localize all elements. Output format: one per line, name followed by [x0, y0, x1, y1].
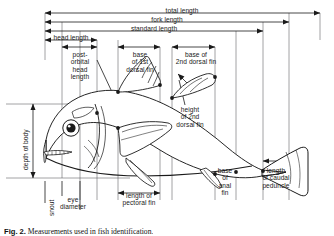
label-fork-length: fork length	[151, 16, 182, 23]
second-dorsal-fin	[172, 74, 215, 98]
fish-measurement-figure: total length fork length standard length…	[0, 0, 334, 236]
figure-caption-text: Measurements used in fish identification…	[28, 227, 153, 236]
label-height-of-2nd-dorsal-fin: height of 2nd dorsal fin	[176, 106, 203, 128]
fish-pupil	[66, 123, 75, 132]
post-orbital-leader	[97, 60, 112, 92]
figure-caption: Fig. 2. Measurements used in fish identi…	[4, 227, 153, 236]
figure-caption-prefix: Fig. 2.	[4, 227, 26, 236]
point-anal-end	[234, 170, 238, 174]
point-head-end	[95, 111, 99, 115]
label-snout: snout	[48, 200, 55, 216]
label-base-of-anal-fin: base of anal fin	[218, 167, 233, 197]
label-total-length: total length	[166, 7, 199, 14]
label-length-of-caudal-peduncle: length of caudal peduncle	[262, 167, 289, 189]
eye-highlight	[68, 125, 71, 128]
point-2nd-dorsal-end	[213, 75, 217, 79]
label-base-of-2nd-dorsal-fin: base of 2nd dorsal fin	[176, 51, 216, 66]
label-standard-length: standard length	[131, 25, 177, 32]
point-1st-dorsal-end	[158, 83, 162, 87]
label-base-of-1st-dorsal-fin: base of 1st dorsal fin	[126, 51, 153, 73]
pelvic-fin	[126, 158, 155, 186]
point-2nd-dorsal-start	[170, 96, 174, 100]
point-pectoral-base	[116, 126, 120, 130]
label-post-orbital-head-length: post- orbital head length	[71, 51, 89, 81]
point-1st-dorsal-start	[116, 90, 120, 94]
label-depth-of-body: depth of body	[22, 129, 29, 170]
label-length-of-pectoral-fin: length of pectoral fin	[123, 192, 156, 207]
label-eye-diameter: eye diameter	[60, 196, 86, 211]
label-head-length: head length	[53, 34, 88, 41]
point-anal-start	[213, 172, 217, 176]
